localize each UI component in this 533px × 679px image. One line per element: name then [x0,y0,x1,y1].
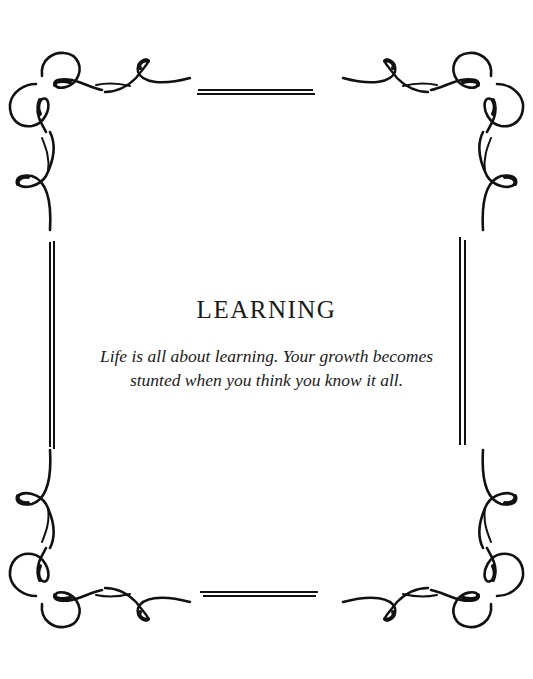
ornamental-frame [0,0,533,679]
flourish-corner-top-left [0,40,200,240]
bottom-rule-inner [203,595,316,597]
flourish-corner-top-right [333,40,533,240]
flourish-icon [333,40,533,240]
right-rule-inner [464,240,466,445]
quote-line-1: Life is all about learning. Your growth … [60,344,473,368]
right-rule-outer [459,237,461,445]
top-rule-outer [198,89,313,91]
flourish-icon [0,440,200,640]
left-rule-outer [49,242,51,447]
bottom-rule-outer [200,591,318,593]
flourish-icon [0,40,200,240]
card-quote: Life is all about learning. Your growth … [60,344,473,392]
top-rule-inner [197,93,315,95]
flourish-icon [333,440,533,640]
flourish-corner-bottom-right [333,440,533,640]
flourish-corner-bottom-left [0,440,200,640]
card-title: LEARNING [0,296,533,324]
left-rule-inner [53,241,55,449]
quote-line-2: stunted when you think you know it all. [60,368,473,392]
